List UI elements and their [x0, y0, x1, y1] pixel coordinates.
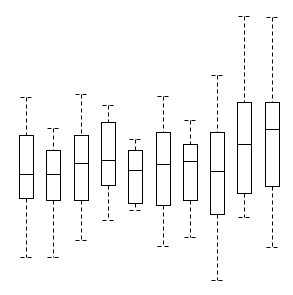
iqr-box [20, 136, 34, 199]
iqr-box [75, 136, 89, 201]
box-plot-item [211, 76, 225, 281]
box-plot-item [75, 95, 89, 241]
box-plot-item [20, 98, 34, 258]
box-plot-item [102, 106, 116, 221]
box-plot-item [266, 18, 280, 248]
box-plot-item [47, 129, 61, 258]
box-plot-item [157, 97, 171, 247]
box-plot-item [184, 121, 198, 238]
iqr-box [238, 103, 252, 194]
iqr-box [47, 151, 61, 201]
boxplot-series-group [20, 17, 280, 281]
box-plot-item [129, 140, 143, 211]
box-plot-item [238, 17, 252, 218]
iqr-box [157, 133, 171, 206]
iqr-box [211, 133, 225, 215]
iqr-box [129, 151, 143, 204]
iqr-box [266, 103, 280, 187]
iqr-box [102, 123, 116, 186]
boxplot-chart [0, 0, 293, 295]
iqr-box [184, 145, 198, 201]
